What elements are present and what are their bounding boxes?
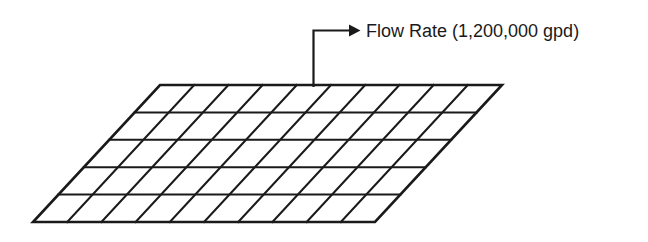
flow-rate-grid-diagram: Flow Rate (1,200,000 gpd)	[0, 0, 648, 242]
flow-rate-label: Flow Rate (1,200,000 gpd)	[366, 21, 579, 41]
diagram-canvas: Flow Rate (1,200,000 gpd)	[0, 0, 648, 242]
